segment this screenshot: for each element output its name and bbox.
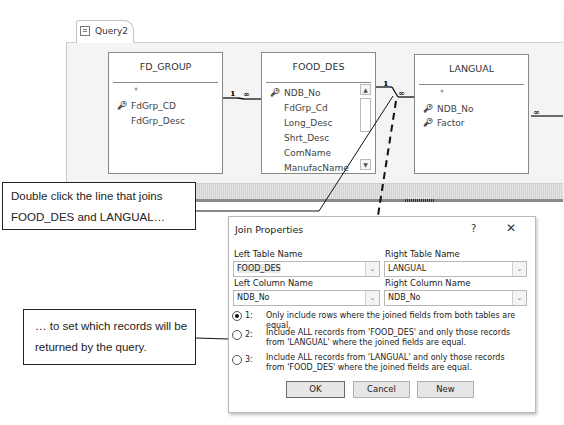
join-option-1-number: 1: (245, 311, 253, 320)
right-table-value: LANGUAL (388, 264, 426, 273)
left-column-label: Left Column Name (234, 278, 313, 288)
right-column-select[interactable]: NDB_No ⌄ (384, 290, 527, 306)
callout-text-line: returned by the query. (35, 337, 195, 358)
callout-bottom: … to set which records will be returned … (23, 309, 196, 365)
join-option-2-text[interactable]: Include ALL records from 'FOOD_DES' and … (266, 328, 516, 348)
join-line-fooddes-langual (376, 87, 414, 97)
join-line-fdgroup-fooddes (223, 98, 261, 99)
close-icon[interactable]: ✕ (506, 221, 516, 235)
join-option-3-number: 3: (245, 355, 253, 364)
chevron-down-icon[interactable]: ⌄ (365, 291, 379, 305)
left-table-label: Left Table Name (234, 249, 302, 259)
join-option-3-radio[interactable] (232, 355, 242, 365)
left-table-value: FOOD_DES (237, 264, 281, 273)
callout-text-line: FOOD_DES and LANGUAL… (11, 207, 195, 228)
right-table-select[interactable]: LANGUAL ⌄ (384, 261, 527, 277)
join-properties-dialog: Join Properties ? ✕ Left Table Name FOOD… (228, 216, 536, 413)
left-column-select[interactable]: NDB_No ⌄ (233, 290, 380, 306)
join-option-3-text[interactable]: Include ALL records from 'LANGUAL' and o… (266, 353, 516, 373)
chevron-down-icon[interactable]: ⌄ (512, 291, 526, 305)
callout-top: Double click the line that joins FOOD_DE… (2, 182, 196, 230)
callout-text-line: Double click the line that joins (11, 186, 195, 207)
right-column-label: Right Column Name (385, 278, 470, 288)
join-option-2-radio[interactable] (232, 330, 242, 340)
left-column-value: NDB_No (237, 293, 270, 302)
right-table-label: Right Table Name (385, 249, 460, 259)
chevron-down-icon[interactable]: ⌄ (365, 262, 379, 276)
new-button[interactable]: New (417, 381, 474, 398)
callout-connector-line (196, 338, 228, 339)
dashed-arrow-line (377, 101, 396, 222)
right-column-value: NDB_No (388, 293, 421, 302)
left-table-select[interactable]: FOOD_DES ⌄ (233, 261, 380, 277)
join-option-1-radio[interactable] (232, 311, 242, 321)
callout-text-line: … to set which records will be (35, 316, 195, 337)
dialog-title: Join Properties (235, 224, 303, 235)
cancel-button[interactable]: Cancel (353, 381, 410, 398)
ok-button[interactable]: OK (286, 381, 345, 398)
callout-pointer-line (196, 96, 393, 211)
help-button[interactable]: ? (471, 223, 476, 234)
chevron-down-icon[interactable]: ⌄ (512, 262, 526, 276)
join-option-2-number: 2: (245, 330, 253, 339)
